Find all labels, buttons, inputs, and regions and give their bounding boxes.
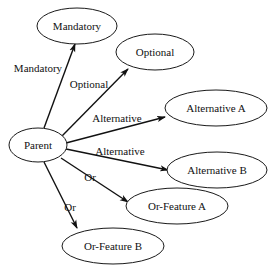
- node-or-feature-a-label: Or-Feature A: [148, 200, 206, 212]
- node-parent-label: Parent: [24, 139, 52, 151]
- edge-mandatory-label: Mandatory: [14, 62, 63, 74]
- node-alternative-b[interactable]: Alternative B: [167, 152, 267, 188]
- diagram-canvas: MandatoryOptionalAlternativeAlternativeO…: [0, 0, 271, 272]
- nodes-layer: ParentMandatoryOptionalAlternative AAlte…: [9, 8, 267, 264]
- node-optional-label: Optional: [136, 46, 175, 58]
- node-alternative-a-label: Alternative A: [186, 102, 246, 114]
- node-or-feature-a[interactable]: Or-Feature A: [126, 188, 228, 224]
- edge-or-feature-b-label: Or: [64, 201, 76, 213]
- node-or-feature-b-label: Or-Feature B: [84, 240, 142, 252]
- node-alternative-a[interactable]: Alternative A: [165, 90, 267, 126]
- node-mandatory[interactable]: Mandatory: [37, 8, 117, 44]
- node-parent[interactable]: Parent: [9, 128, 67, 162]
- edge-optional-label: Optional: [70, 78, 109, 90]
- edge-alternative-b-label: Alternative: [95, 145, 145, 157]
- node-optional[interactable]: Optional: [116, 34, 194, 70]
- feature-model-diagram: MandatoryOptionalAlternativeAlternativeO…: [0, 0, 271, 272]
- edge-or-feature-a-label: Or: [84, 171, 96, 183]
- node-or-feature-b[interactable]: Or-Feature B: [62, 228, 164, 264]
- edge-or-feature-b[interactable]: [44, 162, 77, 228]
- node-mandatory-label: Mandatory: [53, 20, 102, 32]
- edge-alternative-a-label: Alternative: [92, 112, 142, 124]
- node-alternative-b-label: Alternative B: [187, 164, 247, 176]
